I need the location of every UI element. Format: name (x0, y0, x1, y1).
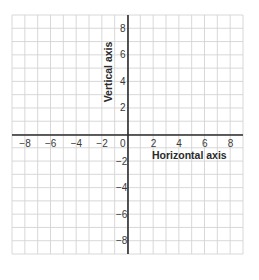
x-tick-label: −4 (71, 139, 82, 149)
coordinate-plane (0, 0, 259, 280)
x-tick-label: 0 (120, 139, 126, 149)
y-tick-label: 2 (120, 103, 126, 113)
y-tick-label: −8 (116, 236, 127, 246)
y-tick-label: −2 (116, 157, 127, 167)
x-tick-label: −2 (96, 139, 107, 149)
x-tick-label: 8 (228, 139, 234, 149)
y-tick-label: −6 (116, 210, 127, 220)
x-tick-label: 6 (202, 139, 208, 149)
y-tick-label: 4 (120, 77, 126, 87)
y-tick-label: 6 (120, 50, 126, 60)
y-tick-label: −4 (116, 183, 127, 193)
x-tick-label: 4 (176, 139, 182, 149)
vertical-axis-title: Vertical axis (103, 42, 114, 103)
x-tick-label: −6 (45, 139, 56, 149)
x-tick-label: −8 (19, 139, 30, 149)
horizontal-axis-title: Horizontal axis (152, 150, 227, 161)
x-tick-label: 2 (151, 139, 157, 149)
y-tick-label: 8 (120, 24, 126, 34)
